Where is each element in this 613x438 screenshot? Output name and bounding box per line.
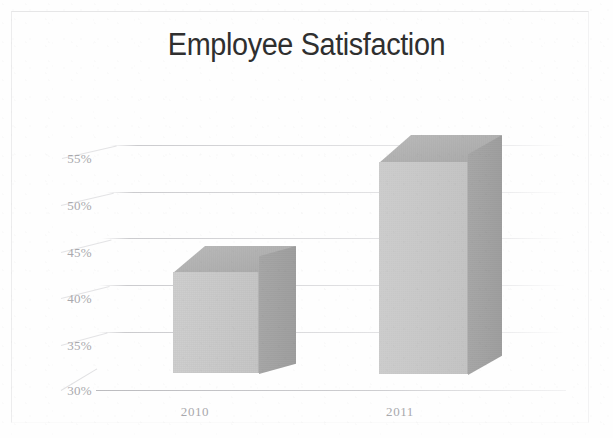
bar-2011-front-face: [379, 162, 468, 374]
bar-2011-side-face: [468, 135, 502, 375]
bar-2010-side-face: [259, 246, 296, 374]
bar-2010-front-face: [173, 272, 259, 373]
bar-2010-value: 44%: [0, 0, 1, 1]
x-tick-label-2010: 2010: [150, 404, 240, 420]
bar-2011-value: 55.5%: [0, 0, 1, 1]
y-tick-label: 40%: [36, 291, 92, 307]
x-tick-label-2011: 2011: [355, 404, 445, 420]
y-tick-label: 35%: [36, 338, 92, 354]
axis-baseline: [96, 390, 566, 391]
y-tick-label: 30%: [36, 383, 92, 399]
y-tick-label: 50%: [36, 198, 92, 214]
y-tick-label: 45%: [36, 245, 92, 261]
chart-container: Employee Satisfaction 44%: [0, 0, 613, 438]
plot-area: 44% 55.5% 55% 50% 45% 40%: [0, 0, 613, 438]
y-tick-label: 55%: [36, 151, 92, 167]
